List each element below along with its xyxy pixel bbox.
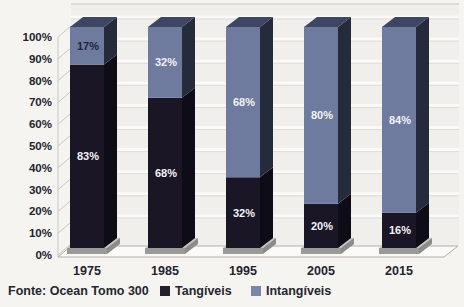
tangiveis-value-label: 32% [233, 207, 255, 219]
bar-side-tangiveis [104, 55, 117, 248]
wall-tick [58, 222, 71, 233]
y-tick-label: 20% [29, 205, 52, 217]
wall-tick [58, 200, 71, 211]
stacked-bar-chart: 100%90%80%70%60%50%40%30%20%10%0%17%83%1… [0, 0, 464, 280]
pedestal-front [223, 248, 263, 254]
wall-tick [58, 113, 71, 124]
tangiveis-value-label: 68% [155, 167, 177, 179]
y-tick-label: 30% [29, 184, 52, 196]
tangiveis-swatch-icon [160, 286, 170, 296]
intangiveis-value-label: 32% [155, 56, 177, 68]
wall-tick [58, 26, 71, 37]
wall-tick [58, 179, 71, 190]
wall-tick [58, 70, 71, 81]
y-tick-label: 0% [35, 249, 52, 261]
source-note: Fonte: Ocean Tomo 300 [8, 284, 149, 298]
x-axis-label: 1985 [151, 264, 179, 278]
y-tick-label: 60% [29, 118, 52, 130]
wall-tick [58, 48, 71, 59]
y-tick-label: 10% [29, 227, 52, 239]
legend-label-tangiveis: Tangíveis [175, 284, 232, 298]
legend-item-tangiveis: Tangíveis [160, 284, 232, 298]
wall-tick [58, 135, 71, 146]
wall-tick [58, 157, 71, 168]
pedestal-front [379, 248, 419, 254]
x-axis-label: 1975 [73, 264, 101, 278]
y-tick-label: 80% [29, 75, 52, 87]
pedestal-front [145, 248, 185, 254]
intangiveis-swatch-icon [251, 286, 261, 296]
intangiveis-value-label: 68% [233, 96, 255, 108]
tangiveis-value-label: 16% [389, 224, 411, 236]
y-tick-label: 70% [29, 96, 52, 108]
y-tick-label: 90% [29, 53, 52, 65]
bar-side-intangiveis [416, 17, 429, 213]
y-tick-label: 40% [29, 162, 52, 174]
tangiveis-value-label: 83% [77, 150, 99, 162]
tangiveis-value-label: 20% [311, 220, 333, 232]
bar-side-intangiveis [338, 17, 351, 204]
legend-label-intangiveis: Intangíveis [266, 284, 331, 298]
chart-footer: Fonte: Ocean Tomo 300 Tangíveis Intangív… [0, 282, 464, 304]
wall-tick [58, 91, 71, 102]
pedestal-front [301, 248, 341, 254]
bar-side-tangiveis [182, 88, 195, 248]
x-axis-label: 1995 [229, 264, 257, 278]
intangiveis-value-label: 17% [77, 40, 99, 52]
pedestal-front [67, 248, 107, 254]
x-axis-label: 2015 [385, 264, 413, 278]
intangiveis-value-label: 80% [311, 109, 333, 121]
y-tick-label: 50% [29, 140, 52, 152]
y-tick-label: 100% [23, 31, 52, 43]
legend-item-intangiveis: Intangíveis [251, 284, 331, 298]
bar-side-intangiveis [182, 17, 195, 98]
bar-side-intangiveis [260, 17, 273, 177]
x-axis-label: 2005 [307, 264, 335, 278]
chart-page: 100%90%80%70%60%50%40%30%20%10%0%17%83%1… [0, 0, 464, 307]
bar-side-tangiveis [260, 167, 273, 248]
intangiveis-value-label: 84% [389, 114, 411, 126]
